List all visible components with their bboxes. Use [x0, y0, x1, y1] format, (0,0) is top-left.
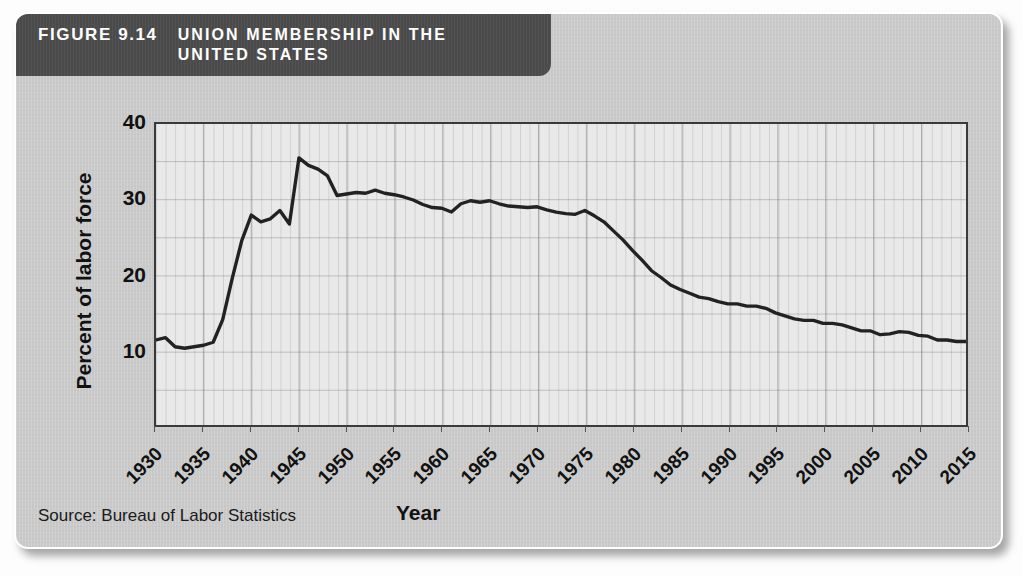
x-tick-mark [920, 426, 921, 432]
x-tick-mark [393, 426, 394, 432]
x-tick-mark [537, 426, 538, 432]
plot-area [154, 122, 968, 427]
x-tick-mark [824, 426, 825, 432]
x-tick-label: 2015 [935, 443, 980, 488]
x-tick-label: 1940 [217, 443, 262, 488]
y-tick-label: 10 [106, 339, 146, 363]
x-tick-mark [633, 426, 634, 432]
x-tick-mark [681, 426, 682, 432]
x-tick-mark [729, 426, 730, 432]
x-tick-label: 2005 [840, 443, 885, 488]
figure-title-inner: FIGURE 9.14 UNION MEMBERSHIP IN THE UNIT… [38, 25, 478, 65]
x-tick-mark [872, 426, 873, 432]
x-tick-mark [298, 426, 299, 432]
x-tick-label: 2010 [888, 443, 933, 488]
y-tick-label: 30 [106, 186, 146, 210]
x-tick-label: 1975 [552, 443, 597, 488]
figure-screenshot: FIGURE 9.14 UNION MEMBERSHIP IN THE UNIT… [0, 0, 1023, 576]
x-tick-mark [968, 426, 969, 432]
x-tick-label: 1960 [409, 443, 454, 488]
x-tick-label: 1995 [744, 443, 789, 488]
x-axis-ticks: 1930193519401945195019551960196519701975… [154, 432, 968, 502]
x-tick-label: 1945 [265, 443, 310, 488]
figure-number: FIGURE 9.14 [38, 25, 158, 45]
x-tick-label: 1985 [648, 443, 693, 488]
x-tick-label: 1955 [361, 443, 406, 488]
x-tick-label: 1965 [457, 443, 502, 488]
source-note: Source: Bureau of Labor Statistics [38, 506, 296, 526]
x-tick-label: 2000 [792, 443, 837, 488]
x-axis-label: Year [396, 501, 440, 525]
figure-title-banner: FIGURE 9.14 UNION MEMBERSHIP IN THE UNIT… [16, 14, 551, 76]
union-membership-line [156, 158, 966, 348]
x-tick-mark [154, 426, 155, 432]
x-tick-mark [585, 426, 586, 432]
x-tick-label: 1950 [313, 443, 358, 488]
y-axis-label: Percent of labor force [72, 131, 96, 431]
y-axis-ticks: 10203040 [94, 122, 146, 427]
x-tick-label: 1990 [696, 443, 741, 488]
line-chart-svg [156, 124, 966, 425]
x-tick-mark [202, 426, 203, 432]
x-tick-mark [346, 426, 347, 432]
x-tick-label: 1935 [169, 443, 214, 488]
figure-title: UNION MEMBERSHIP IN THE UNITED STATES [178, 25, 478, 65]
x-tick-mark [776, 426, 777, 432]
figure-card: FIGURE 9.14 UNION MEMBERSHIP IN THE UNIT… [14, 12, 1003, 549]
x-tick-mark [489, 426, 490, 432]
x-tick-label: 1930 [121, 443, 166, 488]
x-tick-label: 1970 [505, 443, 550, 488]
chart-area: Percent of labor force 10203040 19301935… [16, 14, 1001, 547]
x-tick-mark [441, 426, 442, 432]
y-tick-label: 20 [106, 263, 146, 287]
x-tick-mark [250, 426, 251, 432]
x-tick-label: 1980 [600, 443, 645, 488]
y-tick-label: 40 [106, 110, 146, 134]
